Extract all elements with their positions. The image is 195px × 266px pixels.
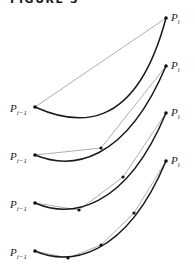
chord-polyline (35, 113, 166, 210)
start-point (33, 153, 37, 157)
start-label: Pi−1 (9, 150, 27, 165)
start-label: Pi−1 (9, 198, 27, 213)
start-label: Pi−1 (9, 246, 27, 261)
start-point (33, 249, 37, 253)
panel-1: Pi−1 Pi (9, 11, 180, 118)
subdivision-point (66, 256, 69, 259)
subdivision-point (99, 146, 102, 149)
end-label: Pi (170, 59, 180, 74)
panel-3: Pi−1 Pi (9, 106, 180, 213)
end-point (164, 64, 168, 68)
subdivision-point (121, 175, 124, 178)
end-label: Pi (170, 106, 180, 121)
start-label: Pi−1 (9, 102, 27, 117)
chord-line (35, 18, 166, 107)
end-label: Pi (170, 11, 180, 26)
end-label: Pi (170, 154, 180, 169)
subdivision-point (132, 211, 135, 214)
panel-4: Pi−1 Pi (9, 154, 180, 261)
chord-polyline (35, 161, 166, 258)
subdivision-point (77, 208, 80, 211)
bezier-curve (35, 18, 166, 118)
end-point (164, 159, 168, 163)
panel-2: Pi−1 Pi (9, 59, 180, 165)
end-point (164, 16, 168, 20)
start-point (33, 201, 37, 205)
curve-approximation-diagram: Pi−1 Pi Pi−1 Pi Pi−1 Pi Pi−1 Pi (0, 0, 195, 266)
end-point (164, 111, 168, 115)
start-point (33, 105, 37, 109)
subdivision-point (99, 243, 102, 246)
